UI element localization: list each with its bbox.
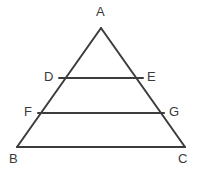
geometry-figure-canvas: A B C D E F G bbox=[0, 0, 202, 172]
triangle-diagram-svg bbox=[0, 0, 202, 172]
side-AC bbox=[101, 28, 185, 147]
side-AB bbox=[17, 28, 101, 147]
vertex-label-B: B bbox=[9, 152, 18, 165]
vertex-label-A: A bbox=[96, 5, 105, 18]
vertex-label-C: C bbox=[178, 152, 187, 165]
vertex-label-F: F bbox=[24, 105, 32, 118]
vertex-label-E: E bbox=[147, 70, 156, 83]
vertex-label-D: D bbox=[44, 70, 53, 83]
vertex-label-G: G bbox=[169, 105, 179, 118]
